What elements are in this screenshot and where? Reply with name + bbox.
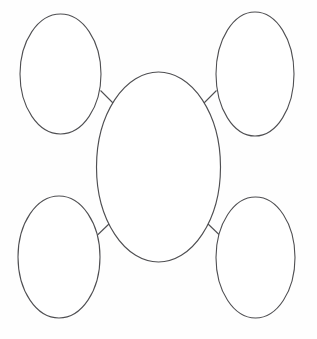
connector-top-right-line <box>204 91 217 104</box>
bubble-bottom-right[interactable] <box>216 197 295 318</box>
connector-top-left-line <box>101 91 114 104</box>
bubble-center[interactable] <box>97 72 221 262</box>
concept-map-canvas <box>0 0 317 339</box>
center-bubble-group <box>97 72 221 262</box>
bubble-bottom-left[interactable] <box>18 196 100 318</box>
bubble-top-right[interactable] <box>216 12 294 136</box>
bubble-top-left[interactable] <box>20 14 101 134</box>
concept-map-diagram <box>0 0 317 339</box>
